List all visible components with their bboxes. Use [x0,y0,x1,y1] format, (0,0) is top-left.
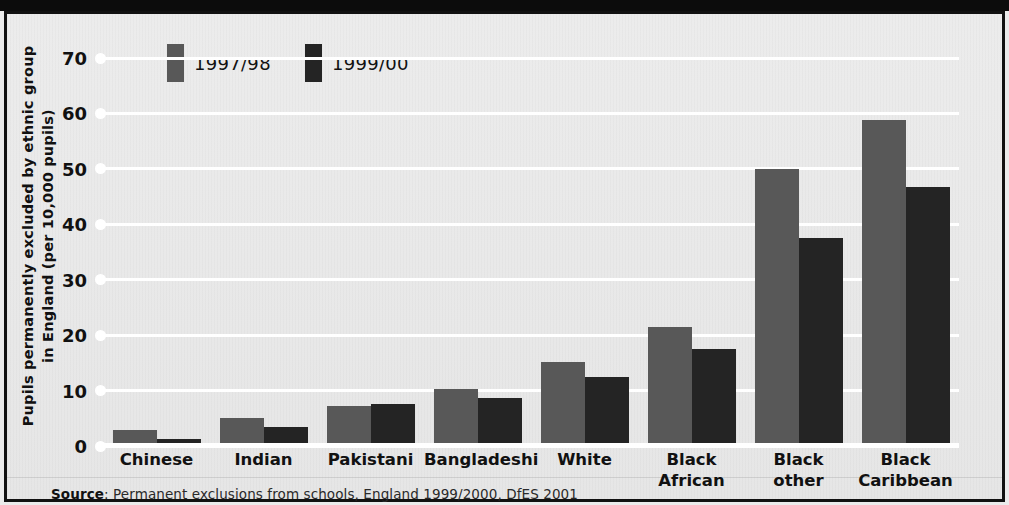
x-axis-label: Pakistani [317,450,424,471]
x-axis-label: White [531,450,638,471]
bar-group [541,58,629,446]
x-axis-label: Black Caribbean [852,450,959,491]
y-tick-label-10: 10 [62,380,87,401]
y-tick-label-50: 50 [62,158,87,179]
source-prefix: Source [51,486,104,502]
x-axis-label: Indian [210,450,317,471]
bar-group [755,58,843,446]
bar-group [327,58,415,446]
bar [220,418,264,446]
source-text: : Permanent exclusions from schools, Eng… [104,486,578,502]
bar-groups [103,58,959,446]
y-tick-label-70: 70 [62,48,87,69]
bar [541,362,585,446]
y-tick-label-0: 0 [74,436,87,457]
bar [327,406,371,446]
bar [906,187,950,446]
x-axis-label: Black African [638,450,745,491]
bar-group [648,58,736,446]
bar [648,327,692,446]
bar [862,120,906,446]
bar-group [113,58,201,446]
source-divider [7,477,1002,478]
bar [799,238,843,446]
y-tick-label-20: 20 [62,325,87,346]
x-axis-baseline [103,443,959,446]
y-tick-label-60: 60 [62,103,87,124]
bar-group [862,58,950,446]
x-axis-label: Black other [745,450,852,491]
chart-frame: Pupils permanently excluded by ethnic gr… [4,11,1005,502]
source-note: Source: Permanent exclusions from school… [51,486,578,502]
bar-group [434,58,522,446]
bar [371,404,415,446]
bar [434,389,478,446]
bar [692,349,736,446]
bar [755,169,799,446]
bar-group [220,58,308,446]
plot-area: 010203040506070 [103,58,959,446]
chart-figure: Pupils permanently excluded by ethnic gr… [0,0,1009,505]
x-axis-label: Chinese [103,450,210,471]
x-axis-label: Bangladeshi [424,450,531,471]
top-black-band [0,0,1009,11]
bar [478,398,522,446]
y-axis-title: Pupils permanently excluded by ethnic gr… [13,40,65,432]
y-tick-label-40: 40 [62,214,87,235]
y-tick-label-30: 30 [62,269,87,290]
bar [585,377,629,446]
